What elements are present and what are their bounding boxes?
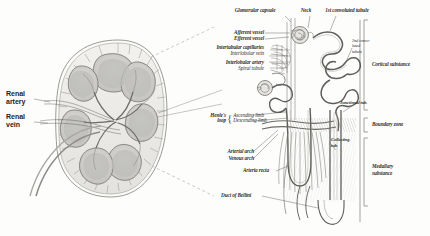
label-arterial-arch: Arterial arch (196, 149, 254, 154)
second-conv-line3: tubule (352, 49, 370, 54)
kidney-illustration (30, 40, 167, 197)
label-henle-limbs: Ascending limb Descending limb (233, 113, 267, 124)
renal-vein-line1: Renal (6, 113, 25, 121)
label-henles-loop: Henle's loop (196, 113, 226, 124)
label-henles-loop-group: Henle's loop { Ascending limb Descending… (196, 112, 267, 124)
label-renal-artery: Renal artery (6, 90, 25, 106)
label-interlobular-vein: Interlobular vein (192, 51, 264, 56)
medullary-line2: substance (372, 170, 393, 177)
label-first-convoluted-tubule: 1st convoluted tubule (310, 8, 384, 13)
henles-loop-brace: { (227, 112, 232, 124)
label-medullary-substance: Medullary substance (372, 163, 393, 176)
label-efferent-vessel: Efferent vessel (196, 36, 264, 41)
collecting-tub-line1: Collecting (331, 137, 349, 143)
spiral-tubule (272, 73, 285, 85)
renal-artery-line2: artery (6, 98, 25, 106)
medullary-line1: Medullary (372, 163, 393, 170)
label-descending-limb: Descending limb (233, 118, 267, 123)
label-collecting-tubule: Collecting tub. (331, 137, 349, 148)
label-venous-arch: Venous arch (196, 156, 254, 161)
glomerulus-lower (257, 81, 273, 96)
label-spiral-tubule: Spiral tubule (196, 66, 264, 71)
renal-artery-line1: Renal (6, 90, 25, 98)
lower-convoluted-tubule (270, 85, 293, 113)
label-arteria-recta: Arteria recta (243, 168, 269, 173)
henles-loop-line2: loop (196, 118, 226, 123)
label-renal-vein: Renal vein (6, 113, 25, 129)
label-boundary-zone: Boundary zone (372, 122, 403, 127)
kidney-leader-lines (34, 99, 50, 123)
label-glomerular-capsule: Glomerular capsule (224, 8, 286, 13)
label-duct-of-bellini: Duct of Bellini (221, 193, 251, 198)
renal-vein-line2: vein (6, 121, 25, 129)
glomerulus-upper (291, 27, 313, 44)
collecting-tub-line2: tub. (331, 143, 349, 149)
boundary-zone-band (286, 118, 356, 132)
label-junctional-tubule: Junctional tub. (340, 101, 367, 106)
label-second-convoluted-tubule: 2nd convo- luted tubule (352, 38, 370, 54)
label-cortical-substance: Cortical substance (372, 62, 410, 67)
anatomical-figure: Renal artery Renal vein Glomerular capsu… (0, 0, 430, 236)
